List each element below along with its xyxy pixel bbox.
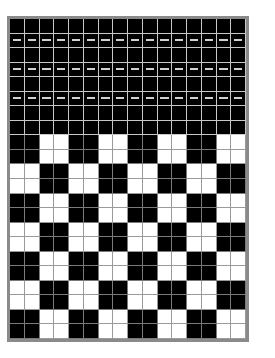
dash-mark <box>175 97 183 99</box>
grid-cell-white <box>10 281 25 296</box>
grid-cell-black <box>217 19 232 34</box>
grid-cell-white <box>84 179 99 194</box>
grid-cell-black <box>10 135 25 150</box>
grid-cell-black <box>202 48 217 63</box>
dash-mark <box>219 68 227 70</box>
dash-mark <box>205 97 213 99</box>
grid-cell-white <box>187 223 202 238</box>
grid-cell-black <box>143 92 158 107</box>
grid-cell-white <box>172 208 187 223</box>
grid-cell-white <box>143 281 158 296</box>
grid-cell-black <box>69 92 84 107</box>
grid-cell-black <box>172 237 187 252</box>
grid-cell-white <box>187 281 202 296</box>
grid-cell-black <box>25 135 40 150</box>
grid-cell-black <box>113 223 128 238</box>
grid-cell-black <box>231 223 246 238</box>
grid-cell-black <box>54 63 69 78</box>
grid-cell-white <box>84 164 99 179</box>
grid-cell-white <box>113 135 128 150</box>
grid-cell-black <box>128 252 143 267</box>
grid-cell-black <box>40 92 55 107</box>
grid-cell-white <box>231 194 246 209</box>
grid-cell-black <box>113 63 128 78</box>
dash-mark <box>160 68 168 70</box>
grid-cell-black <box>54 48 69 63</box>
dash-mark <box>101 39 109 41</box>
grid-cell-black <box>217 48 232 63</box>
grid-cell-white <box>10 223 25 238</box>
grid-cell-black <box>187 92 202 107</box>
grid-cell-white <box>172 252 187 267</box>
grid-cell-black <box>25 266 40 281</box>
grid-cell-black <box>69 208 84 223</box>
grid-cell-black <box>10 208 25 223</box>
grid-cell-white <box>231 324 246 339</box>
grid-cell-white <box>202 179 217 194</box>
grid-cell-black <box>25 34 40 49</box>
grid-cell-black <box>143 63 158 78</box>
grid-cell-white <box>143 164 158 179</box>
grid-cell-black <box>69 34 84 49</box>
grid-cell-black <box>10 106 25 121</box>
grid-cell-white <box>172 266 187 281</box>
dash-mark <box>234 68 242 70</box>
dash-mark <box>87 68 95 70</box>
grid-cell-black <box>84 310 99 325</box>
grid-cell-white <box>69 164 84 179</box>
grid-cell-white <box>99 208 114 223</box>
grid-cell-black <box>10 48 25 63</box>
grid-cell-black <box>143 310 158 325</box>
grid-cell-black <box>25 150 40 165</box>
grid-cell-black <box>187 194 202 209</box>
dash-mark <box>131 68 139 70</box>
grid-cell-black <box>99 48 114 63</box>
grid-cell-black <box>172 121 187 136</box>
grid-cell-white <box>187 179 202 194</box>
dash-mark <box>131 39 139 41</box>
grid-cell-black <box>172 34 187 49</box>
grid-cell-white <box>99 310 114 325</box>
grid-cell-black <box>40 63 55 78</box>
grid-cell-black <box>187 135 202 150</box>
grid-cell-black <box>84 121 99 136</box>
grid-cell-white <box>84 281 99 296</box>
grid-cell-black <box>69 121 84 136</box>
grid-cell-black <box>128 310 143 325</box>
grid-cell-black <box>231 106 246 121</box>
grid-cell-black <box>99 281 114 296</box>
dash-mark <box>13 39 21 41</box>
grid-cell-black <box>158 34 173 49</box>
grid-cell-black <box>202 121 217 136</box>
grid-cell-black <box>10 310 25 325</box>
grid-cell-black <box>54 295 69 310</box>
grid-cell-white <box>54 266 69 281</box>
dash-mark <box>219 97 227 99</box>
grid-cell-black <box>143 48 158 63</box>
dash-mark <box>131 97 139 99</box>
grid-cell-black <box>202 252 217 267</box>
grid-cell-white <box>40 324 55 339</box>
dash-mark <box>101 97 109 99</box>
grid-cell-white <box>143 295 158 310</box>
grid-cell-white <box>217 194 232 209</box>
grid-cell-black <box>217 121 232 136</box>
grid-cell-black <box>158 19 173 34</box>
dash-mark <box>175 68 183 70</box>
grid-cell-white <box>158 310 173 325</box>
grid-cell-white <box>40 150 55 165</box>
grid-cell-black <box>10 92 25 107</box>
grid-cell-black <box>187 150 202 165</box>
grid-cell-black <box>99 77 114 92</box>
grid-cell-white <box>217 150 232 165</box>
grid-cell-white <box>99 135 114 150</box>
grid-cell-black <box>231 63 246 78</box>
grid-cell-black <box>113 77 128 92</box>
grid-cell-black <box>202 310 217 325</box>
grid-cell-black <box>217 106 232 121</box>
grid-cell-black <box>158 92 173 107</box>
grid-cell-black <box>84 324 99 339</box>
grid-cell-black <box>40 281 55 296</box>
grid-cell-black <box>202 324 217 339</box>
grid-cell-black <box>25 310 40 325</box>
